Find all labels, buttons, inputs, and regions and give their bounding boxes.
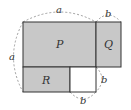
label-P: P: [55, 38, 64, 51]
label-R: R: [41, 74, 50, 87]
label-right-b: b: [101, 74, 107, 85]
geometry-diagram: P Q R a a b b b: [0, 0, 131, 110]
region-blank-square: [70, 67, 96, 92]
label-top-b: b: [105, 8, 111, 19]
label-left-a: a: [9, 51, 15, 62]
label-Q: Q: [104, 38, 113, 51]
label-top-a: a: [56, 4, 62, 15]
label-bottom-b: b: [80, 95, 86, 106]
